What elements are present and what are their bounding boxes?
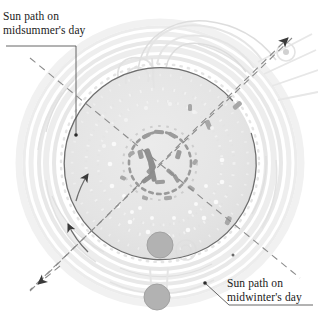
southwest-arrow	[38, 266, 60, 284]
label-midwinter-line1: Sun path on	[227, 277, 302, 291]
midwinter-dash-anchor	[232, 254, 235, 257]
label-midsummer-sun-path: Sun path on midsummer's day	[3, 10, 85, 37]
slaughter-stone-marker	[144, 284, 170, 310]
heel-stone-marker	[147, 232, 173, 258]
label-midwinter-sun-path: Sun path on midwinter's day	[227, 277, 302, 304]
midsummer-leader-anchor	[74, 133, 78, 137]
midwinter-leader-anchor	[203, 281, 207, 285]
label-midsummer-line1: Sun path on	[3, 10, 85, 24]
label-midwinter-line2: midwinter's day	[227, 291, 302, 305]
stonehenge-diagram: Sun path on midsummer's day Sun path on …	[0, 0, 318, 325]
label-midsummer-line2: midsummer's day	[3, 24, 85, 38]
